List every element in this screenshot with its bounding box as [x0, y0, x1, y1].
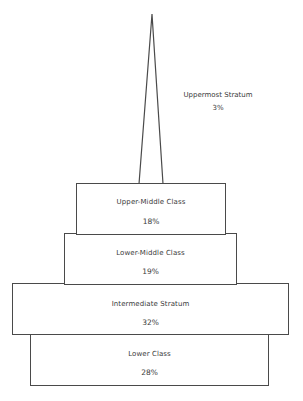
stratum-percent: 18% — [77, 217, 225, 226]
stratum-upper-middle: Upper-Middle Class 18% — [76, 183, 226, 235]
stratum-label: Intermediate Stratum — [13, 300, 288, 308]
stratum-label: Lower Class — [31, 350, 268, 358]
stratum-percent: 28% — [31, 368, 268, 377]
stratum-lower-middle: Lower-Middle Class 19% — [64, 233, 237, 285]
uppermost-label: Uppermost Stratum — [176, 91, 260, 99]
stratum-label: Upper-Middle Class — [77, 198, 225, 206]
uppermost-percent: 3% — [176, 104, 260, 112]
stratum-label: Lower-Middle Class — [65, 249, 236, 257]
stratum-intermediate: Intermediate Stratum 32% — [12, 283, 289, 335]
stratum-lower-class: Lower Class 28% — [30, 332, 269, 386]
stratum-percent: 19% — [65, 267, 236, 276]
stratum-percent: 32% — [13, 318, 288, 327]
